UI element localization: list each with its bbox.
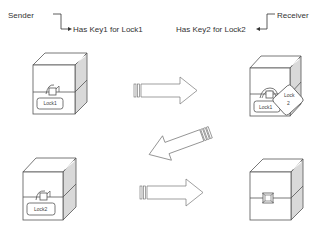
box-1: Lock1: [33, 53, 87, 114]
box-4: [250, 159, 303, 220]
latch-icon: [49, 88, 56, 95]
receiver-connector: [260, 14, 275, 29]
sender-label: Sender: [8, 11, 34, 20]
box-2: Lock1 Lock 2: [250, 56, 304, 116]
box-3: Lock2: [23, 158, 76, 220]
arrowhead-icon: [256, 27, 260, 31]
lock1-tag-label: Lock1: [259, 104, 273, 110]
latch-icon: [266, 91, 273, 98]
lock2-tag-label-line1: Lock: [284, 92, 295, 98]
arrow-1: [134, 77, 197, 104]
arrow-right-icon: [141, 77, 197, 104]
lock2-tag-label-line2: 2: [287, 100, 290, 106]
arrow-3: [140, 179, 203, 206]
lock1-tag-label: Lock1: [44, 100, 58, 106]
arrow-2: [145, 120, 215, 167]
sender-key-label: Has Key1 for Lock1: [73, 25, 143, 34]
arrow-left-icon: [145, 123, 207, 167]
lock-exchange-diagram: Sender Has Key1 for Lock1 Receiver Has K…: [0, 0, 321, 232]
arrowhead-icon: [68, 27, 72, 31]
sender-connector: [53, 14, 68, 29]
lock2-tag-label: Lock2: [34, 206, 48, 212]
receiver-label: Receiver: [277, 11, 309, 20]
receiver-key-label: Has Key2 for Lock2: [176, 25, 246, 34]
arrow-right-icon: [147, 179, 203, 206]
latch-icon: [40, 193, 47, 200]
